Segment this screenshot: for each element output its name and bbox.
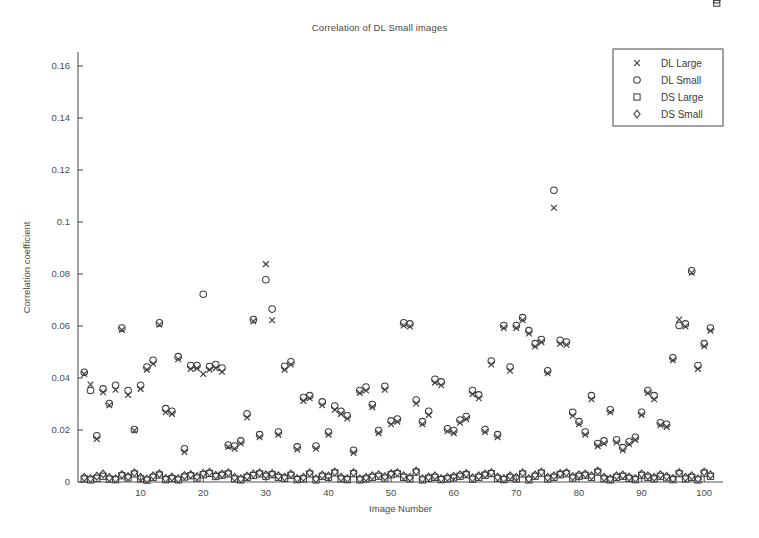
- data-point: [538, 468, 544, 476]
- data-point: [344, 474, 350, 482]
- data-point: [482, 470, 488, 478]
- x-axis-label: Image Number: [369, 503, 432, 514]
- data-point: [432, 376, 439, 383]
- data-point: [701, 468, 707, 476]
- data-point: [112, 475, 118, 483]
- data-point: [588, 472, 594, 480]
- y-tick-label: 0: [65, 476, 70, 487]
- data-point: [87, 474, 93, 482]
- data-point: [332, 468, 338, 476]
- data-point: [300, 473, 306, 481]
- data-point: [682, 473, 688, 481]
- chart-legend: DL LargeDL SmallDS LargeDS Small: [613, 49, 723, 126]
- data-point: [250, 470, 256, 478]
- data-point: [163, 474, 169, 482]
- legend-label: DL Small: [661, 75, 701, 86]
- data-point: [488, 469, 494, 477]
- figure-canvas: Correlation of DL Small images 00.020.04…: [0, 0, 759, 538]
- data-point: [670, 474, 676, 482]
- data-point: [106, 474, 112, 482]
- data-point: [100, 470, 106, 478]
- data-point: [520, 469, 526, 477]
- data-point: [570, 473, 576, 481]
- data-point: [200, 371, 206, 377]
- x-tick-label: 10: [135, 487, 146, 498]
- data-point: [331, 403, 338, 410]
- data-point: [294, 474, 300, 482]
- data-point: [238, 475, 244, 483]
- data-point: [194, 473, 200, 481]
- data-point: [350, 469, 356, 477]
- data-point: [257, 469, 263, 477]
- data-point: [244, 472, 250, 480]
- y-axis: 00.020.040.060.080.10.120.140.16Correlat…: [21, 52, 83, 487]
- data-point: [269, 306, 276, 313]
- y-tick-label: 0.04: [52, 372, 71, 383]
- data-point: [664, 472, 670, 480]
- data-point: [225, 469, 231, 477]
- data-point: [94, 472, 100, 480]
- data-point: [651, 473, 657, 481]
- legend-label: DS Large: [661, 92, 704, 103]
- data-point: [188, 471, 194, 479]
- x-tick-label: 100: [696, 487, 712, 498]
- data-point: [551, 472, 557, 480]
- x-tick-label: 70: [511, 487, 522, 498]
- data-point: [563, 469, 569, 477]
- data-point: [551, 187, 558, 194]
- data-point: [469, 387, 476, 394]
- data-point: [620, 471, 626, 479]
- data-point: [162, 405, 169, 412]
- scatter-plot: 00.020.040.060.080.10.120.140.16Correlat…: [0, 0, 759, 538]
- data-point: [263, 261, 269, 267]
- data-point: [125, 473, 131, 481]
- x-tick-label: 80: [574, 487, 585, 498]
- y-tick-label: 0.02: [52, 424, 71, 435]
- data-point: [131, 426, 138, 433]
- data-point: [401, 472, 407, 480]
- data-point: [545, 473, 551, 481]
- data-point: [382, 473, 388, 481]
- data-point: [494, 473, 500, 481]
- data-point: [212, 361, 219, 368]
- data-point: [150, 357, 157, 364]
- data-point: [419, 475, 425, 483]
- data-point: [394, 469, 400, 477]
- data-point: [582, 470, 588, 478]
- data-point: [601, 473, 607, 481]
- data-point: [532, 471, 538, 479]
- data-point: [363, 384, 370, 391]
- x-tick-label: 50: [386, 487, 397, 498]
- data-point: [501, 474, 507, 482]
- data-point: [645, 472, 651, 480]
- data-point: [475, 392, 482, 399]
- data-point: [156, 470, 162, 478]
- data-point: [507, 472, 513, 480]
- data-point: [269, 317, 275, 323]
- data-point: [231, 473, 237, 481]
- data-point: [413, 467, 419, 475]
- data-point: [425, 408, 432, 415]
- data-point: [557, 337, 564, 344]
- data-point: [426, 473, 432, 481]
- data-point: [638, 470, 644, 478]
- data-point: [363, 473, 369, 481]
- data-point: [369, 472, 375, 480]
- data-point: [313, 475, 319, 483]
- data-point: [657, 471, 663, 479]
- y-tick-label: 0.14: [52, 112, 71, 123]
- data-point: [413, 397, 420, 404]
- data-point: [557, 470, 563, 478]
- data-point: [695, 362, 702, 369]
- data-point: [88, 382, 94, 388]
- data-point: [275, 472, 281, 480]
- data-point: [407, 473, 413, 481]
- data-point: [388, 470, 394, 478]
- data-point: [569, 409, 576, 416]
- data-point: [81, 473, 87, 481]
- data-point: [206, 468, 212, 476]
- data-point: [125, 387, 132, 394]
- data-point: [181, 445, 188, 452]
- data-point: [676, 469, 682, 477]
- data-point: [689, 472, 695, 480]
